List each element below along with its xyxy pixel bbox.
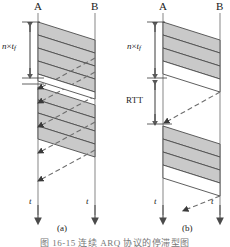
panel-b-sender-label: A [159,1,167,12]
ack-arrow [40,150,95,180]
panel-b-time-label-b: t [211,197,214,206]
panel-a-group [22,13,95,221]
panel-a-sender-label: A [34,1,42,12]
panel-b-frame-bands-group1 [163,22,220,92]
ack-arrow [185,196,220,210]
panel-b-frame-bands-group2 [163,126,220,196]
panel-a-measure-sub: f [14,44,16,52]
ack-arrow [166,92,220,122]
panel-a-label: (a) [57,224,67,233]
panel-a-time-label-b: t [86,197,89,206]
panel-a-time-label-a: t [29,197,32,206]
panel-b-group [147,13,220,221]
panel-b-measure-sub: f [139,44,141,52]
panel-b-measure-label: n×tf [127,42,141,52]
panel-b-rtt-label: RTT [126,96,143,105]
panel-a-measure-label: n×tf [2,42,16,52]
timing-diagram-svg [0,0,230,247]
figure-container: A B A B n×tf n×tf RTT t t t t (a) (b) 图 … [0,0,230,247]
panel-b-rtt-bracket [147,82,172,124]
panel-b-label: (b) [182,224,193,233]
panel-b-receiver-label: B [216,1,223,12]
panel-a-receiver-label: B [91,1,98,12]
panel-b-time-label-a: t [154,197,157,206]
figure-caption: 图 16-15 连续 ARQ 协议的停滞型图 [0,236,230,247]
